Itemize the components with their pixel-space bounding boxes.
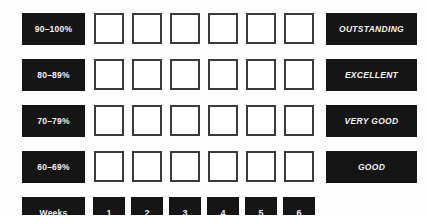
- tick-box[interactable]: [132, 13, 162, 44]
- cell-container: [204, 105, 242, 136]
- cell-container: [90, 59, 128, 90]
- tick-cells: [90, 13, 318, 44]
- cell-container: 5: [242, 197, 280, 216]
- cell-container: [90, 151, 128, 182]
- week-number-6[interactable]: 6: [283, 197, 315, 216]
- rating-label: GOOD: [326, 151, 417, 183]
- tick-box[interactable]: [94, 151, 124, 182]
- row-spacer: [22, 185, 417, 194]
- week-number-1[interactable]: 1: [93, 197, 125, 216]
- cell-container: [242, 13, 280, 44]
- tick-box[interactable]: [94, 59, 124, 90]
- week-number-4[interactable]: 4: [207, 197, 239, 216]
- tick-box[interactable]: [284, 151, 314, 182]
- tick-box[interactable]: [208, 151, 238, 182]
- tick-cells: [90, 59, 318, 90]
- cell-container: [204, 13, 242, 44]
- tick-box[interactable]: [208, 105, 238, 136]
- cell-container: [166, 151, 204, 182]
- cell-container: 1: [90, 197, 128, 216]
- tick-box[interactable]: [208, 13, 238, 44]
- cell-container: [204, 151, 242, 182]
- row-spacer: [22, 93, 417, 102]
- cell-container: 4: [204, 197, 242, 216]
- chart-grid: 90–100% OUTSTANDING 80–89%: [22, 10, 417, 215]
- tick-box[interactable]: [246, 59, 276, 90]
- cell-container: [204, 59, 242, 90]
- progress-chart: 90–100% OUTSTANDING 80–89%: [0, 0, 428, 215]
- tick-box[interactable]: [246, 13, 276, 44]
- cell-container: [128, 13, 166, 44]
- rating-label: EXCELLENT: [326, 59, 417, 91]
- cell-container: 3: [166, 197, 204, 216]
- tick-cells: [90, 105, 318, 136]
- cell-container: [128, 59, 166, 90]
- cell-container: [280, 105, 318, 136]
- rating-placeholder: [326, 197, 417, 216]
- cell-container: [280, 13, 318, 44]
- cell-container: [128, 151, 166, 182]
- table-row: 90–100% OUTSTANDING: [22, 10, 417, 47]
- table-row: 70–79% VERY GOOD: [22, 102, 417, 139]
- tick-box[interactable]: [170, 105, 200, 136]
- tick-box[interactable]: [170, 59, 200, 90]
- table-row: 60–69% GOOD: [22, 148, 417, 185]
- tick-box[interactable]: [284, 105, 314, 136]
- cell-container: [166, 105, 204, 136]
- tick-box[interactable]: [170, 13, 200, 44]
- cell-container: [242, 151, 280, 182]
- tick-box[interactable]: [132, 105, 162, 136]
- cell-container: [166, 13, 204, 44]
- cell-container: [280, 59, 318, 90]
- rating-label: OUTSTANDING: [326, 13, 417, 45]
- row-spacer: [22, 139, 417, 148]
- cell-container: 2: [128, 197, 166, 216]
- cell-container: 6: [280, 197, 318, 216]
- tick-box[interactable]: [94, 13, 124, 44]
- tick-box[interactable]: [132, 151, 162, 182]
- score-range-label: 80–89%: [22, 59, 85, 91]
- tick-box[interactable]: [284, 59, 314, 90]
- cell-container: [90, 13, 128, 44]
- cell-container: [90, 105, 128, 136]
- weeks-row: Weeks 1 2 3 4 5 6: [22, 194, 417, 215]
- tick-box[interactable]: [170, 151, 200, 182]
- cell-container: [166, 59, 204, 90]
- score-range-label: 60–69%: [22, 151, 85, 183]
- week-number-5[interactable]: 5: [245, 197, 277, 216]
- tick-cells: [90, 151, 318, 182]
- tick-box[interactable]: [208, 59, 238, 90]
- cell-container: [128, 105, 166, 136]
- rating-label: VERY GOOD: [326, 105, 417, 137]
- week-number-2[interactable]: 2: [131, 197, 163, 216]
- row-spacer: [22, 47, 417, 56]
- tick-box[interactable]: [284, 13, 314, 44]
- tick-box[interactable]: [132, 59, 162, 90]
- score-range-label: 90–100%: [22, 13, 85, 45]
- week-number-3[interactable]: 3: [169, 197, 201, 216]
- score-range-label: 70–79%: [22, 105, 85, 137]
- tick-box[interactable]: [246, 105, 276, 136]
- week-number-cells: 1 2 3 4 5 6: [90, 197, 318, 216]
- table-row: 80–89% EXCELLENT: [22, 56, 417, 93]
- cell-container: [242, 59, 280, 90]
- tick-box[interactable]: [246, 151, 276, 182]
- tick-box[interactable]: [94, 105, 124, 136]
- cell-container: [242, 105, 280, 136]
- weeks-axis-label: Weeks: [22, 197, 85, 216]
- cell-container: [280, 151, 318, 182]
